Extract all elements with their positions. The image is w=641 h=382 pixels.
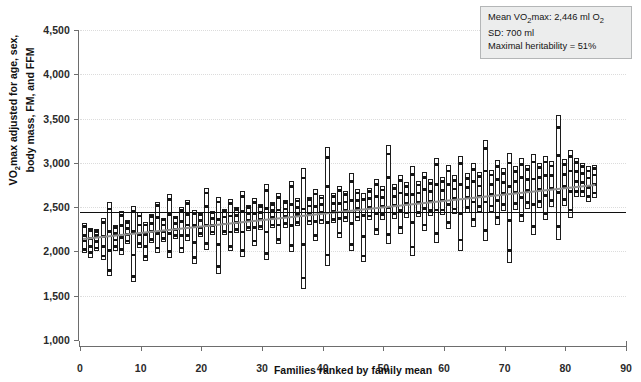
y-tick-mark — [74, 30, 79, 31]
family-member-point — [489, 183, 493, 186]
family-member-point — [562, 163, 566, 166]
family-member-point — [380, 189, 384, 192]
y-tick-label: 4,000 — [43, 68, 70, 80]
family-member-point — [156, 204, 160, 207]
family-member-point — [204, 242, 208, 245]
family-member-point — [562, 173, 566, 176]
family-member-point — [514, 202, 518, 205]
y-tick-mark — [74, 251, 79, 252]
family-member-point — [247, 226, 251, 229]
family-member-point — [150, 222, 154, 225]
grid-line — [80, 251, 626, 252]
family-member-point — [532, 178, 536, 181]
family-member-point — [350, 199, 354, 202]
y-axis-label-rest: max adjusted for age, sex, — [7, 35, 19, 166]
family-member-point — [307, 220, 311, 223]
family-member-point — [241, 195, 245, 198]
family-member-point — [447, 221, 451, 224]
annotation-mean-text: max: 2,446 ml O — [531, 12, 599, 22]
family-member-point — [113, 239, 117, 242]
family-member-point — [338, 217, 342, 220]
family-member-point — [344, 201, 348, 204]
family-member-point — [210, 217, 214, 220]
family-member-point — [489, 174, 493, 177]
family-member-point — [216, 201, 220, 204]
family-member-point — [192, 241, 196, 244]
family-member-point — [326, 156, 330, 159]
family-member-point — [532, 203, 536, 206]
family-member-point — [186, 213, 190, 216]
family-member-point — [574, 161, 578, 164]
x-tick-mark — [444, 346, 445, 351]
y-axis-line — [78, 30, 79, 341]
family-member-point — [216, 265, 220, 268]
family-member-point — [228, 202, 232, 205]
family-member-point — [150, 238, 154, 241]
family-member-point — [586, 195, 590, 198]
family-member-point — [592, 167, 596, 170]
family-member-point — [113, 226, 117, 229]
family-member-point — [550, 165, 554, 168]
family-member-point — [283, 208, 287, 211]
family-member-point — [210, 231, 214, 234]
family-member-point — [235, 208, 239, 211]
family-member-point — [186, 234, 190, 237]
family-member-point — [228, 215, 232, 218]
family-member-point — [520, 214, 524, 217]
family-member-point — [362, 235, 366, 238]
family-member-point — [592, 174, 596, 177]
family-member-point — [544, 194, 548, 197]
family-member-point — [556, 225, 560, 228]
family-member-point — [574, 190, 578, 193]
family-member-point — [301, 208, 305, 211]
family-member-point — [586, 170, 590, 173]
x-tick-mark — [505, 346, 506, 351]
family-member-point — [508, 162, 512, 165]
family-member-point — [332, 202, 336, 205]
family-member-point — [483, 201, 487, 204]
family-member-point — [532, 161, 536, 164]
family-member-point — [119, 236, 123, 239]
family-member-point — [137, 224, 141, 227]
family-member-point — [568, 155, 572, 158]
family-member-point — [198, 213, 202, 216]
family-member-point — [131, 254, 135, 257]
y-tick-label: 1,000 — [43, 334, 70, 346]
family-member-point — [368, 197, 372, 200]
family-member-point — [301, 243, 305, 246]
family-member-point — [410, 221, 414, 224]
family-member-point — [477, 205, 481, 208]
family-member-point — [295, 221, 299, 224]
family-member-point — [174, 216, 178, 219]
mean-reference-line — [80, 212, 626, 213]
family-member-point — [465, 206, 469, 209]
x-tick-mark — [565, 346, 566, 351]
family-member-point — [198, 219, 202, 222]
y-tick-mark — [74, 207, 79, 208]
x-tick-mark — [262, 346, 263, 351]
family-member-point — [332, 218, 336, 221]
family-member-point — [580, 181, 584, 184]
family-member-point — [586, 177, 590, 180]
family-range-bar — [167, 194, 172, 258]
x-tick-mark — [80, 346, 81, 351]
family-range-bar — [204, 188, 209, 250]
family-member-point — [89, 251, 93, 254]
family-member-point — [429, 182, 433, 185]
family-member-point — [253, 201, 257, 204]
y-axis-label-line1: VO2max adjusted for age, sex, — [7, 0, 24, 220]
family-member-point — [150, 215, 154, 218]
family-member-point — [374, 228, 378, 231]
family-range-bar — [471, 163, 476, 227]
family-member-point — [259, 225, 263, 228]
family-range-bar — [507, 153, 512, 263]
family-member-point — [471, 218, 475, 221]
y-tick-label: 2,500 — [43, 201, 70, 213]
family-member-point — [465, 186, 469, 189]
family-member-point — [429, 190, 433, 193]
family-member-point — [313, 193, 317, 196]
family-member-point — [162, 218, 166, 221]
family-member-point — [423, 224, 427, 227]
family-member-point — [332, 195, 336, 198]
family-member-point — [156, 232, 160, 235]
